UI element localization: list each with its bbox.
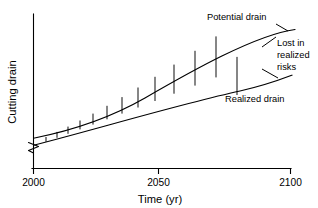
lost-in-realized-risks-hatch-band <box>46 36 237 141</box>
lost-risks-leader <box>262 37 276 47</box>
potential-drain-label: Potential drain <box>207 12 266 22</box>
realized-drain-label: Realized drain <box>225 94 284 104</box>
lost-risks-leader-lower <box>262 69 278 78</box>
cutting-drain-line-chart: Potential drain Lost in realized risks R… <box>0 0 318 208</box>
xtick-label-2000: 2000 <box>22 177 45 188</box>
potential-drain-leader <box>276 24 288 31</box>
realized-drain-curve <box>34 75 293 145</box>
axes <box>32 14 291 169</box>
y-axis-title: Cutting drain <box>6 60 18 123</box>
lost-risks-label-line3: risks <box>277 62 296 72</box>
lost-risks-label-line1: Lost in <box>277 38 304 48</box>
x-axis-title: Time (yr) <box>138 193 183 205</box>
xtick-label-2100: 2100 <box>279 177 302 188</box>
lost-risks-label-line2: realized <box>277 50 310 60</box>
xtick-label-2050: 2050 <box>147 177 170 188</box>
chart-figure: Potential drain Lost in realized risks R… <box>0 0 318 208</box>
potential-drain-curve <box>34 30 296 139</box>
